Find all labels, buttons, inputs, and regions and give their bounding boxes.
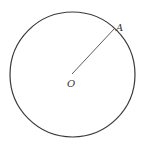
label-center-O: O [67, 78, 75, 89]
label-point-A: A [115, 22, 123, 33]
radius-segment-OA [72, 29, 115, 75]
circle-diagram: A O [0, 0, 142, 148]
